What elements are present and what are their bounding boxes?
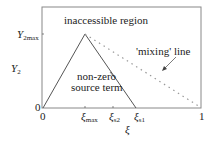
inaccessible-label: inaccessible region — [64, 14, 148, 26]
x-axis-label: ξ — [125, 123, 130, 136]
y-axis-label: Y2 — [11, 62, 21, 76]
source-label-2: source term — [71, 81, 123, 93]
mixing-line-label: 'mixing' line — [136, 45, 190, 57]
x-tick-label-xis2: ξs2 — [109, 110, 120, 124]
y-tick-label-y2max: Y2max — [17, 28, 39, 42]
x-tick-label-0: 0 — [40, 110, 46, 122]
x-tick-label-ximax: ξmax — [81, 110, 98, 124]
x-tick-label-xis1: ξs1 — [134, 110, 145, 124]
diagram-canvas: inaccessible region non-zero source term… — [0, 0, 215, 142]
x-tick-label-1: 1 — [199, 110, 205, 122]
